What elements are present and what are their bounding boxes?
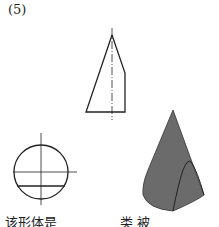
caption-right: 类 被 [120,212,150,227]
top-view [13,133,77,205]
caption-left: 该形体是 [5,212,57,227]
solid-3d-view [143,110,204,211]
front-view [86,28,125,120]
orthographic-diagram [0,0,219,227]
